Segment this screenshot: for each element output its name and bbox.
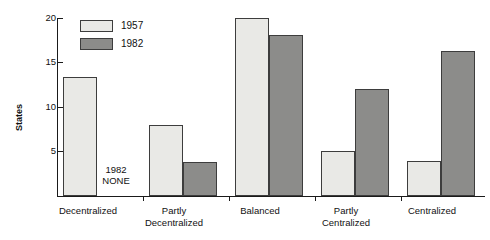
legend-item-1982: 1982 bbox=[80, 37, 143, 50]
y-tick-label-10: 10 bbox=[26, 102, 56, 112]
annotation-1982-none: 1982 NONE bbox=[90, 164, 142, 186]
bar-centralized-1982 bbox=[441, 51, 475, 196]
bar-partly-decentralized-1982 bbox=[183, 162, 217, 196]
bar-group-partly-centralized bbox=[321, 18, 399, 196]
y-tick-label-5: 5 bbox=[26, 146, 56, 156]
y-tick-label-15: 15 bbox=[26, 57, 56, 67]
bar-group-partly-decentralized bbox=[149, 18, 227, 196]
legend-swatch-1957 bbox=[80, 20, 113, 32]
x-label-partly-decentralized: Partly Decentralized bbox=[127, 205, 221, 228]
bar-balanced-1957 bbox=[235, 18, 269, 196]
bar-partly-centralized-1982 bbox=[355, 89, 389, 196]
x-tick-2 bbox=[229, 196, 230, 201]
x-tick-3 bbox=[315, 196, 316, 201]
bar-group-centralized bbox=[407, 18, 485, 196]
legend: 1957 1982 bbox=[80, 19, 143, 55]
legend-swatch-1982 bbox=[80, 38, 113, 50]
x-tick-4 bbox=[401, 196, 402, 201]
bar-partly-centralized-1957 bbox=[321, 151, 355, 196]
legend-label-1982: 1982 bbox=[121, 38, 143, 49]
x-axis-line bbox=[57, 196, 485, 197]
x-label-balanced: Balanced bbox=[213, 205, 307, 217]
bar-balanced-1982 bbox=[269, 35, 303, 196]
bar-group-balanced bbox=[235, 18, 313, 196]
bar-chart: States 20 15 10 5 bbox=[0, 0, 490, 240]
legend-item-1957: 1957 bbox=[80, 19, 143, 32]
x-label-partly-centralized: Partly Centralized bbox=[299, 205, 393, 228]
x-tick-1 bbox=[143, 196, 144, 201]
legend-label-1957: 1957 bbox=[121, 20, 143, 31]
bar-partly-decentralized-1957 bbox=[149, 125, 183, 196]
x-label-centralized: Centralized bbox=[385, 205, 479, 217]
x-label-decentralized: Decentralized bbox=[41, 205, 135, 217]
bar-centralized-1957 bbox=[407, 161, 441, 196]
y-tick-label-20: 20 bbox=[26, 13, 56, 23]
